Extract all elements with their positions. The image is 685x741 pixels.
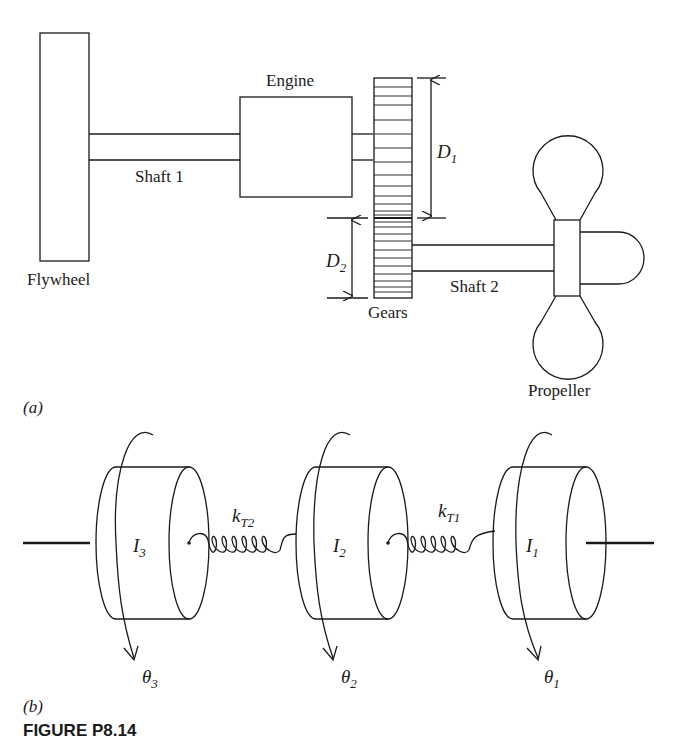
theta-1-symbol: θ — [544, 666, 553, 687]
engine-label: Engine — [266, 71, 314, 90]
d1-symbol: D — [436, 141, 451, 162]
flywheel-shape — [40, 33, 89, 261]
svg-text:D2: D2 — [325, 250, 347, 275]
svg-text:kT1: kT1 — [438, 500, 460, 525]
svg-text:I1: I1 — [525, 535, 539, 560]
engine-gear-shaft — [352, 134, 373, 160]
svg-text:kT2: kT2 — [232, 505, 255, 530]
svg-text:θ3: θ3 — [142, 666, 158, 691]
propeller-shape — [533, 136, 644, 380]
shaft1-label: Shaft 1 — [135, 167, 184, 186]
svg-text:θ1: θ1 — [544, 666, 560, 691]
engine-shape — [240, 97, 352, 197]
svg-text:θ2: θ2 — [341, 666, 357, 691]
inertia-disk-2 — [296, 432, 408, 660]
d2-dimension: D2 — [325, 218, 368, 298]
kt1-subscript: T1 — [446, 510, 460, 525]
kt2-subscript: T2 — [240, 515, 254, 530]
d1-subscript: 1 — [451, 151, 458, 166]
theta-1-subscript: 1 — [553, 676, 560, 691]
part-a-label: (a) — [23, 398, 43, 417]
part-b-torsional-model: I3 θ3 kT2 I2 θ2 kT1 — [23, 432, 654, 716]
gears-shape — [374, 78, 412, 298]
theta-2-subscript: 2 — [350, 676, 357, 691]
part-b-label: (b) — [23, 697, 43, 716]
inertia-2-subscript: 2 — [339, 545, 346, 560]
shaft2-label: Shaft 2 — [450, 277, 499, 296]
gears-label: Gears — [368, 303, 408, 322]
inertia-1-subscript: 1 — [532, 545, 539, 560]
svg-text:D1: D1 — [436, 141, 457, 166]
theta-3-symbol: θ — [142, 666, 151, 687]
flywheel-label: Flywheel — [27, 270, 91, 289]
theta-2-symbol: θ — [341, 666, 350, 687]
figure-canvas: Flywheel Shaft 1 Engine — [0, 0, 685, 741]
d2-subscript: 2 — [340, 260, 347, 275]
svg-text:I2: I2 — [332, 535, 346, 560]
inertia-3-subscript: 3 — [138, 545, 146, 560]
propeller-label: Propeller — [528, 381, 591, 400]
part-a-drivetrain: Flywheel Shaft 1 Engine — [23, 33, 644, 417]
d2-symbol: D — [325, 250, 340, 271]
spring-kt1 — [386, 531, 495, 552]
d1-dimension: D1 — [417, 78, 457, 218]
shaft1-shape — [89, 134, 240, 160]
figure-caption: FIGURE P8.14 — [23, 721, 137, 740]
spring-kt2 — [187, 534, 296, 553]
shaft2-shape — [412, 245, 554, 271]
theta-3-subscript: 3 — [150, 676, 158, 691]
inertia-disk-3 — [96, 432, 209, 660]
inertia-disk-1 — [493, 432, 606, 660]
svg-text:I3: I3 — [132, 535, 146, 560]
